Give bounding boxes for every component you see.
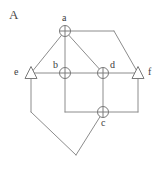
node-c[interactable] <box>98 107 109 118</box>
graph-canvas <box>0 0 161 171</box>
edges-layer <box>31 31 138 155</box>
node-label-c: c <box>101 118 105 128</box>
edge-bottomleft-apex <box>31 112 76 155</box>
node-a[interactable] <box>60 26 71 37</box>
edge-topright-f <box>114 31 138 73</box>
node-label-f: f <box>148 67 151 77</box>
edge-a-e <box>31 31 65 73</box>
nodes-layer <box>25 26 144 118</box>
edge-a-d <box>65 31 103 73</box>
node-label-d: d <box>110 60 115 70</box>
node-label-e: e <box>14 67 18 77</box>
node-b[interactable] <box>60 68 71 79</box>
node-d[interactable] <box>98 68 109 79</box>
edge-apex-c <box>76 112 103 155</box>
node-label-b: b <box>53 60 58 70</box>
node-label-a: a <box>62 13 66 23</box>
figure-panel: A <box>0 0 161 171</box>
